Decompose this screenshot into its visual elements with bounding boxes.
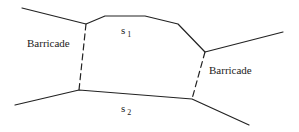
road-s1-subscript: 1 [127,30,131,39]
road-s1-base: s [121,24,125,36]
road-s1-label: s1 [121,24,131,39]
road-network-lines [0,0,299,132]
barricade-left-label: Barricade [27,37,70,49]
barricade-right-label: Barricade [209,64,252,76]
road-s2-subscript: 2 [127,108,131,117]
right-barricade-dashed [192,52,205,99]
road-s2-label: s2 [121,102,131,117]
road-s2-base: s [121,102,125,114]
barricade-road-diagram: Barricade Barricade s1 s2 [0,0,299,132]
lower-road-s2 [15,90,249,125]
left-barricade-dashed [79,24,86,90]
